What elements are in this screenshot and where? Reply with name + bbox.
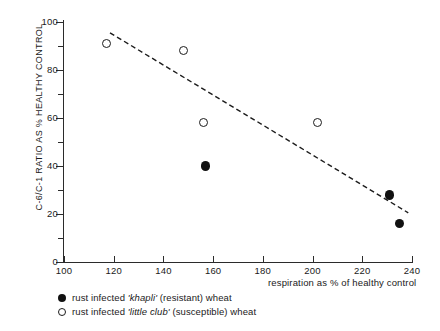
chart-legend: rust infected 'khapli' (resistant) wheat…	[58, 291, 256, 319]
y-tick-label-80: 80	[30, 64, 58, 75]
legend-item-label-1: rust infected 'little club' (susceptible…	[72, 305, 256, 319]
y-tick-label-40: 40	[30, 160, 58, 171]
data-point-series1-3	[313, 118, 322, 127]
y-minor-tick-90	[58, 46, 63, 47]
x-tick-label-140: 140	[143, 265, 183, 276]
x-tick-240	[412, 256, 413, 263]
legend-item-label-0: rust infected 'khapli' (resistant) wheat	[72, 291, 232, 305]
y-minor-tick-10	[58, 238, 63, 239]
y-tick-label-60: 60	[30, 112, 58, 123]
data-point-series1-0	[102, 39, 111, 48]
y-tick-label-100: 100	[30, 16, 58, 27]
legend-cultivar-name-1: 'little club'	[128, 306, 170, 317]
legend-item-1: rust infected 'little club' (susceptible…	[58, 305, 256, 319]
y-minor-tick-70	[58, 94, 63, 95]
x-tick-label-120: 120	[94, 265, 134, 276]
filled-circle-icon	[58, 294, 66, 302]
x-tick-label-180: 180	[243, 265, 283, 276]
data-point-series0-2	[395, 219, 405, 229]
x-axis-title: respiration as % of healthy control	[268, 277, 416, 288]
x-tick-label-200: 200	[293, 265, 333, 276]
scatter-chart-figure: C-6/C-1 RATIO AS % HEALTHY CONTROL 02040…	[0, 0, 440, 331]
x-tick-label-220: 220	[342, 265, 382, 276]
open-circle-icon	[58, 308, 66, 316]
data-point-series0-1	[385, 190, 395, 200]
x-tick-label-240: 240	[392, 265, 432, 276]
plot-area	[64, 22, 412, 262]
y-minor-tick-50	[58, 142, 63, 143]
x-tick-label-160: 160	[193, 265, 233, 276]
data-point-series1-2	[199, 118, 208, 127]
x-tick-label-100: 100	[44, 265, 84, 276]
legend-item-0: rust infected 'khapli' (resistant) wheat	[58, 291, 256, 305]
data-point-series0-0	[201, 161, 211, 171]
legend-cultivar-name-0: 'khapli'	[128, 292, 157, 303]
data-point-series1-1	[179, 46, 188, 55]
y-tick-label-20: 20	[30, 208, 58, 219]
y-minor-tick-30	[58, 190, 63, 191]
x-axis-line	[63, 262, 413, 263]
